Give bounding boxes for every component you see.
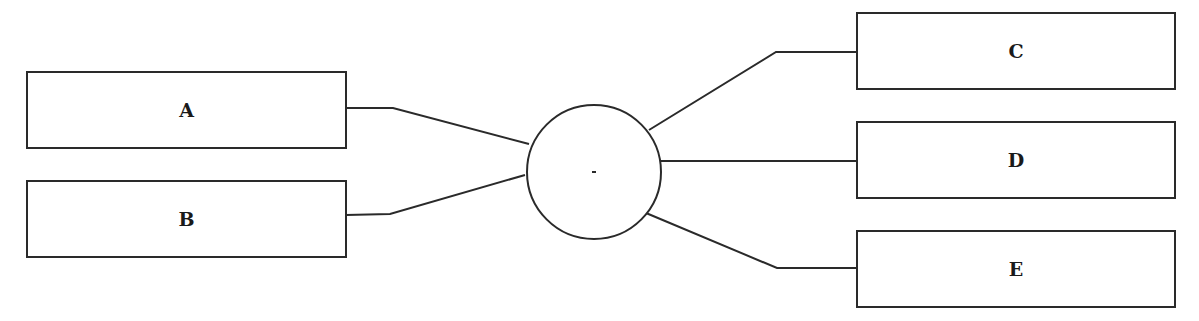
edge-a-hub: [346, 108, 529, 144]
node-box-b: B: [26, 180, 347, 258]
node-label-c: C: [1008, 40, 1023, 62]
node-box-a: A: [26, 71, 347, 149]
node-box-e: E: [856, 230, 1176, 308]
node-label-b: B: [178, 208, 194, 230]
edge-hub-c: [649, 52, 857, 130]
diagram-canvas: A B C D E: [0, 0, 1199, 321]
node-label-d: D: [1008, 149, 1024, 171]
node-box-d: D: [856, 121, 1176, 199]
node-box-c: C: [856, 12, 1176, 90]
node-label-a: A: [179, 99, 194, 121]
node-label-e: E: [1009, 258, 1023, 280]
edge-hub-e: [646, 213, 857, 268]
hub-center-mark: [592, 171, 596, 173]
edge-b-hub: [346, 175, 525, 215]
